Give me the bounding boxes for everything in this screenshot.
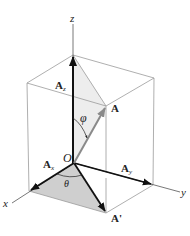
z-axis-label: z [69, 12, 75, 24]
vector-ay-label: A y [121, 162, 133, 176]
svg-text:y: y [128, 168, 133, 176]
theta-label: θ [64, 178, 69, 189]
svg-text:x: x [50, 164, 55, 172]
vertical-plane-shade [73, 55, 106, 163]
origin-label: O [63, 151, 72, 165]
y-axis-label: y [180, 186, 186, 198]
vector-components-diagram: z x y O A A z A x A y A' φ θ [0, 0, 190, 236]
x-axis-label: x [2, 197, 8, 209]
svg-text:A: A [43, 158, 51, 170]
vector-az-label: A z [55, 79, 66, 93]
svg-text:A: A [55, 79, 63, 91]
a-prime-label: A' [111, 212, 122, 224]
vector-ax-label: A x [43, 158, 55, 172]
phi-label: φ [80, 111, 87, 125]
svg-text:z: z [62, 85, 66, 93]
svg-text:A: A [121, 162, 129, 174]
vector-a-label: A [111, 102, 119, 114]
